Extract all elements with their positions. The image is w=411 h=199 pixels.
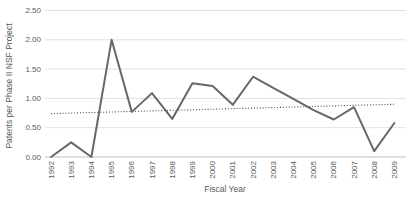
y-axis-title: Patents per Phase II NSF Project [5, 23, 14, 148]
y-tick-label: 0.00 [25, 153, 41, 162]
x-tick-label: 1996 [127, 160, 136, 178]
y-tick-label: 1.50 [25, 65, 41, 74]
plot-area: 0.000.501.001.502.002.501992199319941995… [0, 0, 411, 199]
x-tick-label: 2004 [289, 160, 298, 178]
y-tick-label: 2.00 [25, 35, 41, 44]
x-tick-label: 1997 [148, 160, 157, 178]
x-tick-label: 1992 [47, 160, 56, 178]
x-tick-label: 2002 [249, 160, 258, 178]
x-tick-label: 2009 [390, 160, 399, 178]
y-tick-label: 0.50 [25, 123, 41, 132]
y-tick-label: 2.50 [25, 6, 41, 15]
trendline [51, 104, 394, 113]
x-tick-label: 1998 [168, 160, 177, 178]
x-tick-label: 2006 [329, 160, 338, 178]
x-tick-label: 1994 [87, 160, 96, 178]
x-tick-label: 1999 [188, 160, 197, 178]
x-tick-label: 2000 [208, 160, 217, 178]
patents-line-chart: 0.000.501.001.502.002.501992199319941995… [0, 0, 411, 199]
x-tick-label: 2003 [269, 160, 278, 178]
x-tick-label: 2005 [309, 160, 318, 178]
x-tick-label: 2008 [370, 160, 379, 178]
x-tick-label: 2007 [350, 160, 359, 178]
x-tick-label: 1993 [67, 160, 76, 178]
x-tick-label: 2001 [228, 160, 237, 178]
y-tick-label: 1.00 [25, 94, 41, 103]
x-tick-label: 1995 [107, 160, 116, 178]
x-axis-title: Fiscal Year [204, 185, 246, 194]
